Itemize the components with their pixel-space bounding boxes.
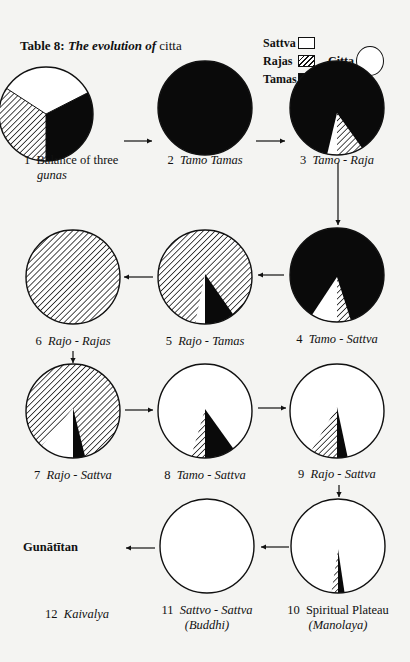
- arrow-7-to-8: [125, 407, 153, 412]
- pie-label-text: Kaivalya: [64, 607, 109, 621]
- arrow-3-to-4: [335, 163, 340, 225]
- pie-label-12: 12 Kaivalya: [0, 607, 157, 622]
- arrow-10-to-11: [261, 544, 289, 549]
- pie-number: 11: [161, 603, 173, 617]
- pie-8: [158, 364, 252, 458]
- arrow-9-to-10: [336, 485, 341, 497]
- pie-chart-grid: [0, 0, 410, 662]
- pie-number: 3: [300, 153, 306, 167]
- arrow-1-to-2: [124, 138, 152, 143]
- pie-9: [290, 364, 384, 458]
- pie-label-9: 9 Rajo - Sattva: [257, 467, 410, 482]
- pie-11: [160, 499, 254, 593]
- pie-label-text: Tamo Tamas: [180, 153, 243, 167]
- arrow-5-to-6: [124, 274, 153, 279]
- pie-number: 5: [166, 334, 172, 348]
- pie-4: [290, 228, 384, 322]
- pie-10: [291, 499, 385, 593]
- pie-label-text: Balance of three: [37, 153, 119, 167]
- pie-label-1: 1 Balance of threegunas: [24, 153, 118, 183]
- pie-3: [290, 61, 384, 155]
- pie-number: 9: [298, 467, 304, 481]
- pie-label-text: Spiritual Plateau: [306, 603, 389, 617]
- pie-label-6: 6 Rajo - Rajas: [0, 334, 153, 349]
- pie-label-text: Tamo - Sattva: [309, 332, 378, 346]
- pie-label-text: Rajo - Sattva: [311, 467, 376, 481]
- pie-number: 12: [45, 607, 58, 621]
- pie-label-text: Sattvo - Sattva: [180, 603, 253, 617]
- pie-number: 7: [34, 468, 40, 482]
- pie-5: [158, 230, 252, 324]
- arrow-6-to-7: [70, 351, 75, 363]
- pie-number: 2: [167, 153, 173, 167]
- pie-1: [0, 67, 93, 161]
- pie-number: 10: [287, 603, 300, 617]
- pie-number: 4: [296, 332, 302, 346]
- pie-label-text: Tamo - Raja: [313, 153, 374, 167]
- arrow-4-to-5: [258, 272, 284, 277]
- pie-number: 6: [36, 334, 42, 348]
- pie-number: 1: [24, 153, 30, 167]
- pie-6: [26, 230, 120, 324]
- pie-label-line2: gunas: [37, 168, 67, 182]
- arrow-2-to-3: [256, 138, 285, 143]
- pie-label-text: Tamo - Sattva: [177, 468, 246, 482]
- pie-label-text: Rajo - Rajas: [48, 334, 111, 348]
- pie-2: [158, 61, 252, 155]
- pie-label-3: 3 Tamo - Raja: [257, 153, 410, 168]
- arrow-8-to-9: [258, 405, 286, 410]
- pie-label-line2: (Buddhi): [185, 618, 229, 632]
- pie-label-text: Rajo - Tamas: [178, 334, 244, 348]
- pie-label-text: Rajo - Sattva: [47, 468, 112, 482]
- arrow-11-to-12: [126, 545, 155, 550]
- gunatitan-label: Gunātītan: [23, 540, 78, 555]
- pie-label-line2: (Manolaya): [308, 618, 367, 632]
- pie-7: [26, 364, 120, 458]
- pie-number: 8: [164, 468, 170, 482]
